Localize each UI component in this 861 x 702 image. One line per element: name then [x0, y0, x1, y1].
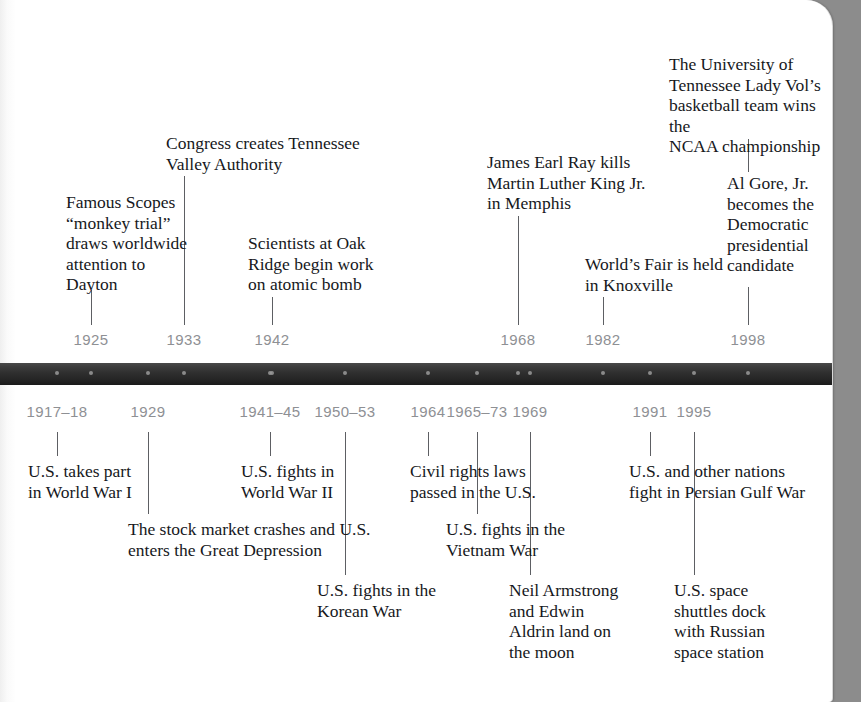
year-label: 1917–18: [26, 403, 87, 420]
event-caption-al-gore-candidate: Al Gore, Jr. becomes the Democratic pres…: [727, 173, 837, 276]
event-caption-civil-rights-laws: Civil rights laws passed in the U.S.: [410, 461, 550, 502]
timeline-tick-dot: [601, 371, 605, 375]
year-label: 1998: [731, 331, 766, 348]
event-caption-stock-market-crash: The stock market crashes and U.S. enters…: [128, 519, 378, 560]
year-label: 1933: [167, 331, 202, 348]
event-caption-shuttle-mir-docking: U.S. space shuttles dock with Russian sp…: [674, 580, 794, 662]
timeline-bar: [0, 363, 832, 385]
event-caption-tennessee-valley-authority: Congress creates Tennessee Valley Author…: [166, 133, 366, 174]
event-caption-oak-ridge-atomic-bomb: Scientists at Oak Ridge begin work on at…: [248, 233, 380, 295]
timeline-tick-dot: [182, 371, 186, 375]
timeline-tick-dot: [692, 371, 696, 375]
timeline-tick-dot: [528, 371, 532, 375]
event-caption-moon-landing: Neil Armstrong and Edwin Aldrin land on …: [509, 580, 639, 662]
leader-line: [91, 290, 92, 325]
timeline-tick-dot: [516, 371, 520, 375]
leader-line: [603, 297, 604, 325]
page-gutter-shading: [0, 0, 16, 702]
year-label: 1969: [513, 403, 548, 420]
timeline-tick-dot: [270, 371, 274, 375]
event-caption-scopes-trial: Famous Scopes “monkey trial” draws world…: [66, 192, 196, 295]
leader-line: [650, 432, 651, 456]
scanned-page-canvas: 1925193319421968198219981917–1819291941–…: [0, 0, 861, 702]
timeline-tick-dot: [89, 371, 93, 375]
timeline-tick-dot: [146, 371, 150, 375]
year-label: 1991: [633, 403, 668, 420]
year-label: 1982: [586, 331, 621, 348]
timeline-tick-dot: [426, 371, 430, 375]
year-label: 1925: [74, 331, 109, 348]
timeline-tick-dot: [648, 371, 652, 375]
leader-line: [270, 432, 271, 456]
event-caption-korean-war: U.S. fights in the Korean War: [317, 580, 457, 621]
leader-line: [272, 297, 273, 325]
timeline-tick-dot: [55, 371, 59, 375]
leader-line: [428, 432, 429, 456]
leader-line: [748, 287, 749, 325]
year-label: 1950–53: [314, 403, 375, 420]
year-label: 1964: [411, 403, 446, 420]
event-caption-world-war-one: U.S. takes part in World War I: [28, 461, 158, 502]
year-label: 1942: [255, 331, 290, 348]
event-caption-vietnam-war: U.S. fights in the Vietnam War: [446, 519, 586, 560]
year-label: 1995: [677, 403, 712, 420]
leader-line: [57, 432, 58, 456]
event-caption-world-war-two: U.S. fights in World War II: [241, 461, 361, 502]
timeline-tick-dot: [746, 371, 750, 375]
event-caption-worlds-fair-knoxville: World’s Fair is held in Knoxville: [585, 254, 725, 295]
year-label: 1929: [131, 403, 166, 420]
event-caption-persian-gulf-war: U.S. and other nations fight in Persian …: [629, 461, 819, 502]
event-caption-james-earl-ray-mlk: James Earl Ray kills Martin Luther King …: [487, 152, 667, 214]
year-label: 1968: [501, 331, 536, 348]
year-label: 1941–45: [239, 403, 300, 420]
event-caption-lady-vols-ncaa: The University of Tennessee Lady Vol’s b…: [669, 54, 835, 157]
year-label: 1965–73: [446, 403, 507, 420]
timeline-tick-dot: [343, 371, 347, 375]
leader-line: [694, 432, 695, 575]
timeline-tick-dot: [475, 371, 479, 375]
leader-line: [518, 216, 519, 325]
